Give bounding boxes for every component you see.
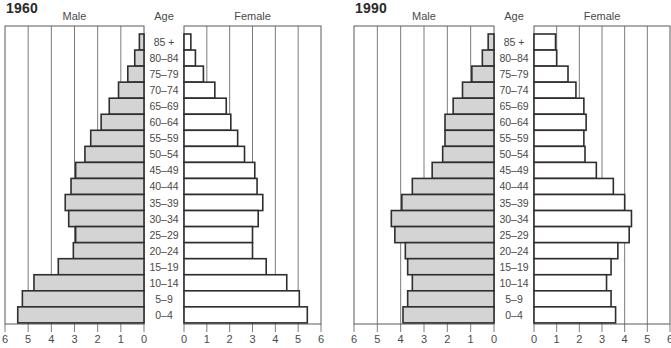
female-bar-1990-85+ bbox=[534, 34, 556, 50]
female-bar-1960-55-59 bbox=[184, 130, 238, 146]
female-axis-tick-label: 0 bbox=[531, 333, 537, 345]
age-label: 0–4 bbox=[155, 309, 173, 321]
male-bar-1960-30-34 bbox=[69, 211, 144, 227]
male-axis-tick-label: 1 bbox=[468, 333, 474, 345]
male-bar-1990-65-69 bbox=[453, 98, 494, 114]
female-bar-1960-30-34 bbox=[184, 211, 258, 227]
female-header-1960: Female bbox=[234, 10, 271, 22]
female-header-1990: Female bbox=[584, 10, 621, 22]
male-bar-1990-20-24 bbox=[405, 243, 494, 259]
female-bar-1990-80-84 bbox=[534, 50, 557, 66]
male-bar-1960-60-64 bbox=[101, 114, 144, 130]
male-bar-1990-85+ bbox=[488, 34, 494, 50]
female-bar-1990-20-24 bbox=[534, 243, 618, 259]
female-bar-1960-25-29 bbox=[184, 227, 253, 243]
male-bar-1960-0-4 bbox=[18, 307, 144, 323]
male-bar-1990-75-79 bbox=[472, 66, 494, 82]
female-axis-tick-label: 5 bbox=[644, 333, 650, 345]
male-bar-1990-5-9 bbox=[408, 291, 494, 307]
male-header-1990: Male bbox=[412, 10, 436, 22]
pyramid-plot-1960: MaleAgeFemale85 +80–8475–7970–7465–6960–… bbox=[0, 0, 335, 348]
female-axis-tick-label: 3 bbox=[249, 333, 255, 345]
male-bar-1990-55-59 bbox=[445, 130, 494, 146]
female-axis-tick-label: 4 bbox=[622, 333, 628, 345]
age-label: 50–54 bbox=[499, 148, 528, 160]
male-bar-1990-80-84 bbox=[482, 50, 494, 66]
female-axis-tick-label: 1 bbox=[554, 333, 560, 345]
age-label: 15–19 bbox=[499, 261, 528, 273]
female-bar-1990-25-29 bbox=[534, 227, 629, 243]
pyramid-1990: 1990 MaleAgeFemale85 +80–8475–7970–7465–… bbox=[345, 0, 671, 348]
male-bar-1960-25-29 bbox=[76, 227, 144, 243]
female-bar-1960-45-49 bbox=[184, 162, 255, 178]
age-label: 60–64 bbox=[499, 116, 528, 128]
female-bar-1990-75-79 bbox=[534, 66, 568, 82]
male-bar-1990-35-39 bbox=[402, 195, 494, 211]
female-axis-tick-label: 0 bbox=[181, 333, 187, 345]
female-bar-1990-70-74 bbox=[534, 82, 576, 98]
female-bar-1960-80-84 bbox=[184, 50, 195, 66]
age-label: 85 + bbox=[154, 36, 175, 48]
male-bar-1990-40-44 bbox=[412, 178, 494, 194]
age-label: 70–74 bbox=[499, 84, 528, 96]
female-axis-tick-label: 4 bbox=[272, 333, 278, 345]
male-axis-tick-label: 5 bbox=[374, 333, 380, 345]
age-label: 20–24 bbox=[149, 245, 178, 257]
male-bar-1990-70-74 bbox=[463, 82, 495, 98]
female-bar-1960-70-74 bbox=[184, 82, 215, 98]
male-bar-1960-5-9 bbox=[22, 291, 144, 307]
female-bar-1990-30-34 bbox=[534, 211, 631, 227]
age-label: 45–49 bbox=[499, 164, 528, 176]
age-label: 70–74 bbox=[149, 84, 178, 96]
female-bar-1990-40-44 bbox=[534, 178, 613, 194]
male-axis-tick-label: 0 bbox=[141, 333, 147, 345]
female-bar-1990-15-19 bbox=[534, 259, 611, 275]
male-bar-1960-80-84 bbox=[135, 50, 144, 66]
age-label: 30–34 bbox=[149, 213, 178, 225]
age-label: 75–79 bbox=[499, 68, 528, 80]
age-header-1990: Age bbox=[504, 10, 524, 22]
age-label: 40–44 bbox=[149, 180, 178, 192]
age-label: 55–59 bbox=[499, 132, 528, 144]
female-bar-1990-60-64 bbox=[534, 114, 586, 130]
female-bar-1960-35-39 bbox=[184, 195, 263, 211]
female-bar-1960-40-44 bbox=[184, 178, 257, 194]
age-label: 5–9 bbox=[505, 293, 523, 305]
female-bar-1960-20-24 bbox=[184, 243, 253, 259]
age-label: 0–4 bbox=[505, 309, 523, 321]
male-axis-tick-label: 6 bbox=[351, 333, 357, 345]
male-bar-1960-75-79 bbox=[128, 66, 144, 82]
female-bar-1990-35-39 bbox=[534, 195, 625, 211]
age-label: 35–39 bbox=[499, 197, 528, 209]
pyramid-1960: 1960 MaleAgeFemale85 +80–8475–7970–7465–… bbox=[0, 0, 335, 348]
male-axis-tick-label: 5 bbox=[25, 333, 31, 345]
female-bar-1990-5-9 bbox=[534, 291, 611, 307]
age-label: 25–29 bbox=[499, 229, 528, 241]
male-axis-tick-label: 6 bbox=[2, 333, 8, 345]
age-label: 60–64 bbox=[149, 116, 178, 128]
female-axis-tick-label: 2 bbox=[227, 333, 233, 345]
male-axis-tick-label: 4 bbox=[398, 333, 404, 345]
female-bar-1990-45-49 bbox=[534, 162, 596, 178]
male-axis-tick-label: 2 bbox=[444, 333, 450, 345]
male-bar-1960-20-24 bbox=[73, 243, 144, 259]
male-bar-1960-10-14 bbox=[34, 275, 144, 291]
male-bar-1990-30-34 bbox=[391, 211, 494, 227]
female-axis-tick-label: 6 bbox=[318, 333, 324, 345]
male-bar-1960-65-69 bbox=[109, 98, 144, 114]
age-label: 30–34 bbox=[499, 213, 528, 225]
age-label: 5–9 bbox=[155, 293, 173, 305]
age-label: 40–44 bbox=[499, 180, 528, 192]
age-label: 25–29 bbox=[149, 229, 178, 241]
female-bar-1960-65-69 bbox=[184, 98, 226, 114]
age-label: 80–84 bbox=[149, 52, 178, 64]
male-bar-1990-60-64 bbox=[445, 114, 494, 130]
age-label: 10–14 bbox=[149, 277, 178, 289]
male-bar-1960-15-19 bbox=[58, 259, 144, 275]
female-bar-1960-15-19 bbox=[184, 259, 266, 275]
female-bar-1960-10-14 bbox=[184, 275, 287, 291]
female-bar-1990-55-59 bbox=[534, 130, 584, 146]
female-bar-1960-0-4 bbox=[184, 307, 307, 323]
male-bar-1960-55-59 bbox=[91, 130, 144, 146]
male-bar-1990-15-19 bbox=[408, 259, 494, 275]
